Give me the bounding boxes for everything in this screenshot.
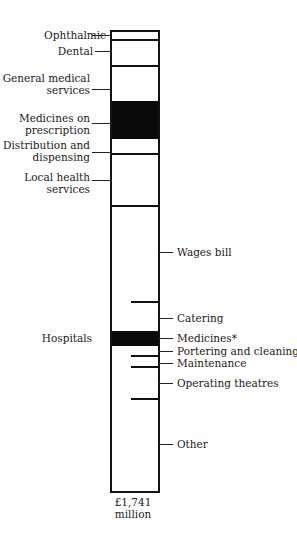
leader-other [158, 444, 173, 445]
segment-hospital-medicines [112, 331, 158, 346]
label-dental: Dental [58, 45, 93, 57]
label-maintenance: Maintenance [177, 357, 246, 369]
leader-ophthalmic-line [92, 35, 110, 36]
leader-wages [158, 252, 173, 253]
label-hospitals: Hospitals [42, 332, 92, 344]
total-unit: million [100, 508, 166, 520]
label-medicines-prescription-2: prescription [25, 124, 90, 136]
label-other: Other [177, 438, 208, 450]
total-amount: £1,741 [100, 496, 166, 508]
divider-ophthalmic [112, 39, 158, 41]
tick-portering [131, 355, 158, 357]
leader-distribution [92, 152, 110, 153]
label-local-health-1: Local health [24, 171, 90, 183]
label-operating-theatres: Operating theatres [177, 377, 279, 389]
label-medicines-prescription-1: Medicines on [19, 112, 90, 124]
label-distribution-2: dispensing [33, 151, 90, 163]
leader-medicines-prescription [92, 123, 110, 124]
stacked-bar [110, 30, 160, 493]
leader-portering [158, 351, 173, 352]
tick-wages-catering [131, 301, 158, 303]
leader-medicines [158, 338, 173, 339]
leader-catering [158, 318, 173, 319]
tick-theatres [131, 398, 158, 400]
label-distribution-1: Distribution and [3, 139, 90, 151]
leader-dental [95, 51, 110, 52]
label-catering: Catering [177, 312, 224, 324]
label-local-health-2: services [47, 183, 90, 195]
leader-general-medical [92, 89, 110, 90]
label-general-medical-1: General medical [3, 72, 90, 84]
divider-dental [112, 65, 158, 67]
leader-theatres [158, 383, 173, 384]
label-wages-bill: Wages bill [177, 246, 232, 258]
segment-medicines-prescription [112, 101, 158, 139]
label-medicines: Medicines* [177, 332, 237, 344]
label-general-medical-2: services [47, 84, 90, 96]
divider-distribution [112, 153, 158, 155]
divider-local-health [112, 205, 158, 207]
leader-maintenance [158, 363, 173, 364]
label-portering: Portering and cleaning [177, 345, 297, 357]
tick-maintenance [131, 366, 158, 368]
leader-local-health [92, 180, 110, 181]
